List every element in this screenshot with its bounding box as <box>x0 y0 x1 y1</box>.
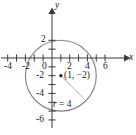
x-tick-label-neg2: -2 <box>22 62 30 72</box>
radius-label: r = 4 <box>53 100 72 110</box>
center-point-marker <box>59 74 62 77</box>
x-tick-label-neg4: -4 <box>4 62 12 72</box>
y-axis-label: y <box>55 1 59 11</box>
radius-label-value: = 4 <box>57 99 72 109</box>
y-tick-label-neg4: -4 <box>36 89 44 99</box>
y-tick-label-2: 2 <box>41 35 46 45</box>
x-tick-label-6: 6 <box>103 62 108 72</box>
circle-graph-figure: -4 -2 0 2 4 6 2 -2 -4 -6 x y (1, −2) r =… <box>0 0 136 135</box>
y-tick-label-neg6: -6 <box>36 115 44 125</box>
x-axis-label: x <box>129 53 133 63</box>
y-tick-label-neg2: -2 <box>36 71 44 81</box>
center-point-label: (1, −2) <box>64 71 90 81</box>
